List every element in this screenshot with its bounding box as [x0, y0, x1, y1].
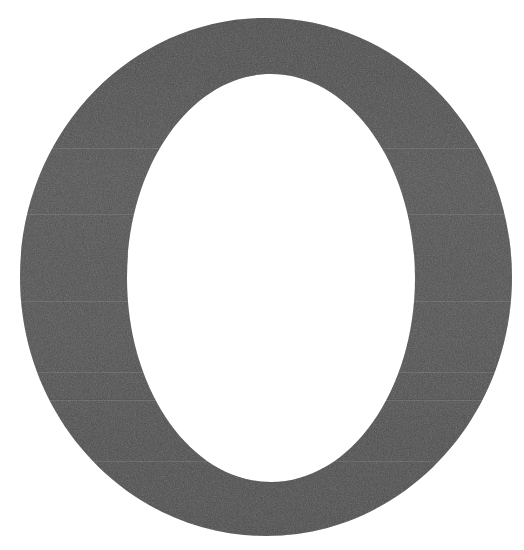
glyph-specimen-page: O Letter O	[0, 0, 524, 550]
letter-o-glyph: O Letter O	[0, 0, 524, 550]
